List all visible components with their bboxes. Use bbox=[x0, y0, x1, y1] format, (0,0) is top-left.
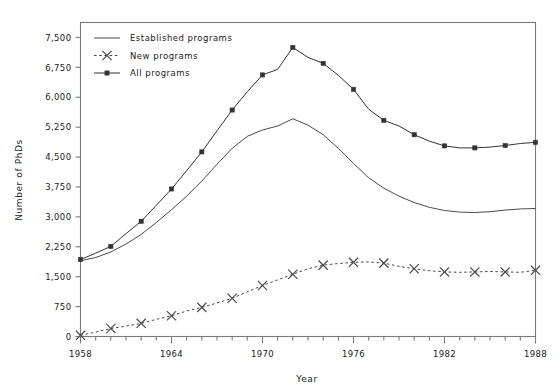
x-tick-label: 1982 bbox=[433, 349, 456, 359]
legend-label: All programs bbox=[130, 68, 190, 78]
legend-label: Established programs bbox=[130, 33, 232, 43]
data-point-marker-square bbox=[169, 187, 173, 191]
x-tick-label: 1964 bbox=[160, 349, 183, 359]
y-tick-label: 6,750 bbox=[45, 63, 71, 73]
y-tick-label: 7,500 bbox=[45, 33, 71, 43]
data-point-marker-square bbox=[78, 257, 82, 261]
y-tick-label: 2,250 bbox=[45, 242, 71, 252]
x-tick-label: 1958 bbox=[69, 349, 92, 359]
data-point-marker-square bbox=[109, 244, 113, 248]
data-point-marker-square bbox=[442, 144, 446, 148]
data-point-marker-square bbox=[260, 73, 264, 77]
x-tick-label: 1988 bbox=[524, 349, 547, 359]
data-point-marker-square bbox=[139, 219, 143, 223]
y-tick-label: 5,250 bbox=[45, 122, 71, 132]
y-tick-label: 0 bbox=[66, 332, 72, 342]
data-point-marker-square bbox=[473, 146, 477, 150]
phd-line-chart: 07501,5002,2503,0003,7504,5005,2506,0006… bbox=[0, 0, 558, 391]
legend-label: New programs bbox=[130, 51, 198, 61]
y-tick-label: 1,500 bbox=[45, 272, 71, 282]
data-point-marker-square bbox=[200, 150, 204, 154]
data-point-marker-square bbox=[321, 61, 325, 65]
y-axis-title: Number of PhDs bbox=[14, 139, 24, 221]
y-tick-label: 6,000 bbox=[45, 92, 71, 102]
y-tick-label: 3,000 bbox=[45, 212, 71, 222]
data-point-marker-square bbox=[503, 143, 507, 147]
data-point-marker-square bbox=[533, 140, 537, 144]
x-tick-label: 1976 bbox=[342, 349, 365, 359]
x-tick-label: 1970 bbox=[251, 349, 274, 359]
y-tick-label: 750 bbox=[54, 302, 71, 312]
data-point-marker-square bbox=[105, 71, 109, 75]
data-point-marker-square bbox=[291, 45, 295, 49]
data-point-marker-square bbox=[230, 108, 234, 112]
y-tick-label: 4,500 bbox=[45, 152, 71, 162]
x-axis-title: Year bbox=[295, 374, 317, 384]
y-tick-label: 3,750 bbox=[45, 182, 71, 192]
data-point-marker-square bbox=[382, 118, 386, 122]
data-point-marker-square bbox=[351, 87, 355, 91]
chart-container: 07501,5002,2503,0003,7504,5005,2506,0006… bbox=[0, 0, 558, 391]
data-point-marker-square bbox=[412, 133, 416, 137]
